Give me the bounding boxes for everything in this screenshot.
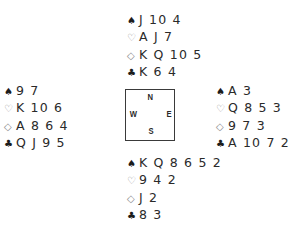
north-clubs: K 6 4 [139,64,177,79]
south-hearts-row: ♡9 4 2 [127,171,222,188]
spade-icon: ♠ [216,83,228,100]
south-clubs-row: ♣8 3 [127,206,222,223]
west-hearts: K 10 6 [16,100,63,115]
north-hand: ♠J 10 4 ♡A J 7 ◇K Q 10 5 ♣K 6 4 [127,11,202,80]
spade-icon: ♠ [127,155,139,172]
west-hand: ♠9 7 ♡K 10 6 ◇A 8 6 4 ♣Q J 9 5 [4,82,69,151]
east-diamonds-row: ◇9 7 3 [216,117,290,134]
south-hearts: 9 4 2 [139,172,177,187]
east-spades: A 3 [228,83,252,98]
south-spades: K Q 8 6 5 2 [139,155,222,170]
east-clubs-row: ♣A 10 7 2 [216,134,290,151]
heart-icon: ♡ [4,100,16,117]
west-hearts-row: ♡K 10 6 [4,99,69,116]
west-clubs-row: ♣Q J 9 5 [4,134,69,151]
north-diamonds-row: ◇K Q 10 5 [127,46,202,63]
heart-icon: ♡ [127,29,139,46]
west-diamonds: A 8 6 4 [16,118,69,133]
club-icon: ♣ [4,135,16,152]
compass-east-label: E [166,109,171,119]
east-spades-row: ♠A 3 [216,82,290,99]
compass-north-label: N [147,92,153,102]
south-hand: ♠K Q 8 6 5 2 ♡9 4 2 ◇J 2 ♣8 3 [127,154,222,223]
compass-south-label: S [148,126,153,136]
heart-icon: ♡ [127,172,139,189]
compass-box: N W E S [125,89,175,141]
north-hearts-row: ♡A J 7 [127,28,202,45]
south-clubs: 8 3 [139,207,162,222]
south-diamonds: J 2 [139,190,158,205]
south-spades-row: ♠K Q 8 6 5 2 [127,154,222,171]
north-hearts: A J 7 [139,29,173,44]
diamond-icon: ◇ [127,190,139,207]
west-clubs: Q J 9 5 [16,135,66,150]
diamond-icon: ◇ [127,47,139,64]
east-clubs: A 10 7 2 [228,135,290,150]
north-spades-row: ♠J 10 4 [127,11,202,28]
north-diamonds: K Q 10 5 [139,47,202,62]
spade-icon: ♠ [4,83,16,100]
spade-icon: ♠ [127,12,139,29]
east-hearts: Q 8 5 3 [228,100,282,115]
west-diamonds-row: ◇A 8 6 4 [4,117,69,134]
diamond-icon: ◇ [216,118,228,135]
east-hearts-row: ♡Q 8 5 3 [216,99,290,116]
compass-west-label: W [130,109,137,119]
north-spades: J 10 4 [139,12,182,27]
club-icon: ♣ [127,207,139,224]
east-hand: ♠A 3 ♡Q 8 5 3 ◇9 7 3 ♣A 10 7 2 [216,82,290,151]
south-diamonds-row: ◇J 2 [127,189,222,206]
north-clubs-row: ♣K 6 4 [127,63,202,80]
club-icon: ♣ [216,135,228,152]
diamond-icon: ◇ [4,118,16,135]
east-diamonds: 9 7 3 [228,118,266,133]
west-spades-row: ♠9 7 [4,82,69,99]
west-spades: 9 7 [16,83,39,98]
heart-icon: ♡ [216,100,228,117]
club-icon: ♣ [127,64,139,81]
